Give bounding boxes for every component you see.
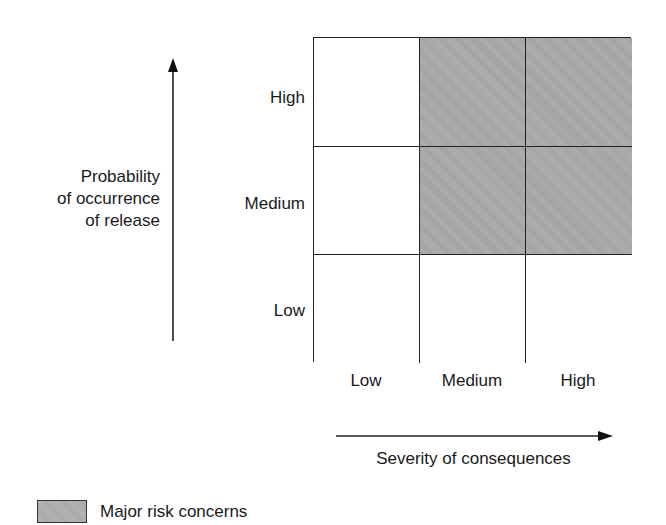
y-axis-title-line-3: of release (10, 210, 160, 232)
legend-label: Major risk concerns (100, 501, 247, 523)
cell-low-low (314, 255, 420, 363)
y-axis-title-line-1: Probability (10, 166, 160, 188)
x-label-high: High (525, 371, 631, 391)
cell-medium-high (526, 147, 632, 255)
y-axis-title-line-2: of occurrence (10, 188, 160, 210)
x-axis-arrow-icon (334, 426, 616, 446)
cell-high-low (314, 38, 420, 147)
cell-low-medium (420, 255, 526, 363)
legend-swatch (37, 500, 87, 523)
cell-high-medium (420, 38, 526, 147)
y-axis-title: Probability of occurrence of release (10, 166, 160, 232)
y-axis-arrow-icon (163, 55, 183, 345)
cell-high-high (526, 38, 632, 147)
y-label-medium: Medium (215, 194, 305, 214)
x-label-medium: Medium (419, 371, 525, 391)
y-label-high: High (215, 88, 305, 108)
risk-matrix (313, 37, 631, 362)
cell-low-high (526, 255, 632, 363)
x-label-low: Low (313, 371, 419, 391)
x-axis-title: Severity of consequences (336, 448, 611, 470)
y-label-low: Low (215, 301, 305, 321)
cell-medium-low (314, 147, 420, 255)
cell-medium-medium (420, 147, 526, 255)
